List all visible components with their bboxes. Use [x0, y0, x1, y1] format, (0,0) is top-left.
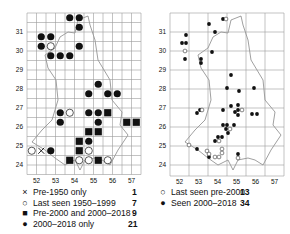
filled-circle-marker [184, 33, 188, 37]
axis-tick-label: 56 [252, 178, 260, 185]
county-outline [185, 16, 281, 170]
axis-tick-label: 27 [16, 104, 24, 111]
right-distribution-grid: 5253545556573130292827262524 [145, 0, 290, 190]
filled-square-marker [95, 128, 102, 135]
open-circle-marker [76, 157, 83, 164]
axis-tick-label: 57 [271, 178, 279, 185]
filled-circle-marker [66, 52, 73, 59]
filled-circle-marker [85, 109, 92, 116]
filled-circle-marker [47, 52, 54, 59]
axis-tick-label: 52 [176, 178, 184, 185]
filled-circle-marker [250, 112, 254, 116]
filled-circle-marker [195, 147, 199, 151]
legend-item-2000-2018-only: ● 2000–2018 only 21 [20, 219, 145, 230]
filled-square-marker [95, 157, 102, 164]
open-circle-marker [85, 157, 92, 164]
open-circle-icon: ○ [158, 187, 168, 198]
open-circle-marker [200, 108, 204, 112]
filled-circle-marker [38, 43, 45, 50]
filled-circle-marker [213, 139, 217, 143]
left-map: 5253545556573130292827262524 [0, 0, 145, 190]
cross-marker [38, 148, 44, 154]
filled-circle-marker [255, 112, 259, 116]
axis-tick-label: 25 [16, 142, 24, 149]
axis-tick-label: 26 [159, 123, 167, 130]
filled-square-marker [85, 128, 92, 135]
legend-item-pre-2000-and-2000-2018: ■ Pre-2000 and 2000–2018 9 [20, 208, 145, 219]
filled-circle-marker [220, 135, 224, 139]
filled-circle-marker [47, 147, 54, 154]
filled-circle-marker [76, 24, 83, 31]
cross-icon: × [20, 187, 30, 198]
legend-item-last-seen-pre-2000: ○ Last seen pre-2000 13 [158, 187, 288, 198]
filled-circle-marker [66, 14, 73, 21]
open-circle-marker [66, 109, 73, 116]
axis-tick-label: 24 [159, 161, 167, 168]
filled-square-marker [66, 157, 73, 164]
filled-circle-marker [210, 50, 214, 54]
filled-square-marker [104, 109, 111, 116]
axis-tick-label: 30 [159, 47, 167, 54]
filled-square-marker [76, 147, 83, 154]
filled-circle-marker [95, 119, 102, 126]
filled-circle-marker [207, 22, 211, 26]
filled-circle-marker [57, 52, 64, 59]
axis-tick-label: 29 [159, 66, 167, 73]
filled-circle-marker [85, 90, 92, 97]
axis-tick-label: 27 [159, 104, 167, 111]
filled-square-marker [76, 138, 83, 145]
axis-tick-label: 24 [16, 161, 24, 168]
filled-square-marker [123, 119, 130, 126]
filled-circle-icon: ● [20, 219, 30, 230]
filled-circle-marker [229, 73, 233, 77]
legend-item-pre-1950: × Pre-1950 only 1 [20, 187, 145, 198]
filled-circle-marker [38, 33, 45, 40]
axis-tick-label: 54 [214, 178, 222, 185]
filled-circle-marker [184, 41, 188, 45]
axis-tick-label: 55 [233, 178, 241, 185]
legend-item-last-seen-1950-1999: ○ Last seen 1950–1999 7 [20, 198, 145, 209]
filled-circle-marker [221, 108, 225, 112]
axis-tick-label: 29 [16, 66, 24, 73]
filled-circle-marker [199, 61, 203, 65]
filled-circle-marker [236, 103, 240, 107]
axis-tick-label: 53 [52, 177, 60, 184]
open-circle-icon: ○ [20, 198, 30, 209]
axis-tick-label: 53 [195, 178, 203, 185]
filled-circle-marker [76, 14, 83, 21]
open-circle-marker [228, 127, 232, 131]
axis-tick-label: 25 [159, 142, 167, 149]
filled-circle-marker [114, 90, 121, 97]
filled-circle-marker [183, 57, 187, 61]
filled-square-marker [133, 119, 140, 126]
open-circle-marker [224, 17, 228, 21]
legend-item-seen-2000-2018: ● Seen 2000–2018 34 [158, 198, 288, 209]
filled-circle-marker [226, 131, 230, 135]
filled-circle-marker [236, 113, 240, 117]
open-circle-marker [217, 139, 221, 143]
open-circle-marker [183, 49, 187, 53]
open-circle-marker [220, 147, 224, 151]
filled-circle-marker [236, 152, 240, 156]
open-circle-marker [213, 155, 217, 159]
filled-circle-marker [224, 127, 228, 131]
filled-circle-marker [95, 81, 102, 88]
open-circle-marker [28, 147, 35, 154]
filled-circle-marker [225, 86, 229, 90]
axis-tick-label: 26 [16, 123, 24, 130]
axis-tick-label: 52 [33, 177, 41, 184]
filled-circle-marker [213, 30, 217, 34]
axis-tick-label: 56 [109, 177, 117, 184]
filled-circle-marker [216, 135, 220, 139]
open-circle-marker [207, 152, 211, 156]
filled-circle-marker [180, 41, 184, 45]
filled-circle-marker [225, 123, 229, 127]
right-map: 5253545556573130292827262524 [145, 0, 290, 190]
filled-circle-marker [229, 104, 233, 108]
filled-circle-marker [47, 33, 54, 40]
filled-circle-marker [252, 86, 256, 90]
filled-circle-marker [232, 123, 236, 127]
filled-circle-marker [221, 123, 225, 127]
open-circle-marker [85, 147, 92, 154]
open-circle-marker [240, 108, 244, 112]
